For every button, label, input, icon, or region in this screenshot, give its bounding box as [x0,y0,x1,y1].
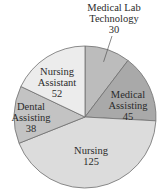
slice-label-medical-lab-technology: Medical LabTechnology30 [87,2,140,35]
slice-label-line: Dental [17,101,45,112]
slice-label-line: Technology [89,13,139,24]
slice-value: 125 [83,156,99,167]
slice-label-line: Nursing [40,66,75,77]
slice-label-line: Assisting [108,100,148,111]
slice-label-line: Medical Lab [87,2,140,13]
slice-label-line: Nursing [74,145,109,156]
slice-label-line: Assistant [38,77,77,88]
pie-chart: Medical LabTechnology30MedicalAssisting4… [0,0,167,190]
slice-label-line: Assisting [11,112,51,123]
slice-label-line: Medical [111,89,145,100]
slice-value: 45 [123,111,134,122]
slice-value: 52 [52,88,63,99]
slice-value: 30 [109,24,120,35]
slice-value: 38 [26,123,37,134]
